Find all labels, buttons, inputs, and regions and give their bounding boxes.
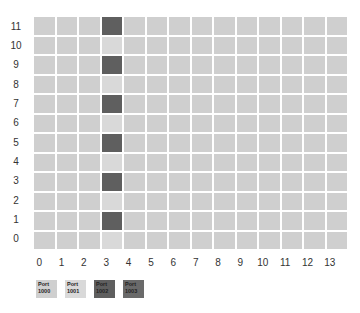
heatmap-cell <box>147 56 168 74</box>
heatmap-cell <box>304 193 325 211</box>
y-tick-label: 5 <box>6 137 26 149</box>
heatmap-cell <box>259 76 280 94</box>
heatmap-cell <box>304 76 325 94</box>
heatmap-cell <box>214 76 235 94</box>
heatmap-cell <box>259 37 280 55</box>
heatmap-cell <box>79 154 100 172</box>
heatmap-cell <box>147 212 168 230</box>
heatmap-cell <box>34 232 55 250</box>
heatmap-cell <box>79 173 100 191</box>
heatmap-cell <box>282 76 303 94</box>
y-tick-label: 4 <box>6 156 26 168</box>
x-tick-label: 11 <box>274 257 296 268</box>
heatmap-cell <box>169 154 190 172</box>
heatmap-cell <box>147 115 168 133</box>
heatmap-cell <box>327 173 348 191</box>
heatmap-cell <box>79 56 100 74</box>
heatmap-cell <box>124 134 145 152</box>
x-tick-label: 6 <box>162 257 184 268</box>
heatmap-cell <box>327 134 348 152</box>
heatmap-cell <box>327 212 348 230</box>
y-tick-label: 6 <box>6 117 26 129</box>
heatmap-cell <box>192 17 213 35</box>
heatmap-cell <box>282 212 303 230</box>
legend-port-1002: Port 1002 <box>94 280 115 298</box>
heatmap-cell <box>192 37 213 55</box>
heatmap-cell <box>57 17 78 35</box>
heatmap-cell <box>57 154 78 172</box>
heatmap-cell <box>282 173 303 191</box>
heatmap-cell <box>237 17 258 35</box>
heatmap-cell <box>237 56 258 74</box>
heatmap-cell <box>147 232 168 250</box>
heatmap-cell <box>57 212 78 230</box>
heatmap-cell <box>304 212 325 230</box>
heatmap-cell <box>147 17 168 35</box>
heatmap-cell <box>102 134 123 152</box>
legend-label: Port <box>38 281 55 288</box>
heatmap-cell <box>34 37 55 55</box>
heatmap-cell <box>327 95 348 113</box>
heatmap-cell <box>214 154 235 172</box>
heatmap-cell <box>34 115 55 133</box>
heatmap-cell <box>304 37 325 55</box>
heatmap-cell <box>304 134 325 152</box>
heatmap-cell <box>34 134 55 152</box>
heatmap-cell <box>237 115 258 133</box>
heatmap-cell <box>192 212 213 230</box>
heatmap-cell <box>79 76 100 94</box>
heatmap-cell <box>259 212 280 230</box>
heatmap-cell <box>34 17 55 35</box>
heatmap-cell <box>237 154 258 172</box>
heatmap-cell <box>214 17 235 35</box>
heatmap-cell <box>34 173 55 191</box>
heatmap-cell <box>124 95 145 113</box>
heatmap-cell <box>237 193 258 211</box>
x-tick-label: 2 <box>73 257 95 268</box>
heatmap-cell <box>192 56 213 74</box>
heatmap-cell <box>34 56 55 74</box>
legend-label: 1002 <box>96 288 113 295</box>
x-tick-label: 0 <box>28 257 50 268</box>
heatmap-cell <box>102 76 123 94</box>
heatmap-cell <box>192 95 213 113</box>
heatmap-cell <box>304 232 325 250</box>
heatmap-cell <box>124 37 145 55</box>
x-tick-label: 1 <box>51 257 73 268</box>
heatmap-cell <box>237 37 258 55</box>
heatmap-cell <box>304 115 325 133</box>
heatmap-cell <box>147 173 168 191</box>
legend-label: Port <box>125 281 142 288</box>
heatmap-cell <box>124 76 145 94</box>
heatmap-cell <box>327 115 348 133</box>
heatmap-cell <box>57 76 78 94</box>
heatmap-cell <box>304 154 325 172</box>
heatmap-cell <box>192 115 213 133</box>
heatmap-cell <box>327 17 348 35</box>
y-tick-label: 2 <box>6 195 26 207</box>
heatmap-cell <box>79 193 100 211</box>
heatmap-cell <box>192 154 213 172</box>
heatmap-cell <box>124 17 145 35</box>
heatmap-cell <box>282 232 303 250</box>
legend-port-1000: Port 1000 <box>36 280 57 298</box>
heatmap-cell <box>192 134 213 152</box>
heatmap-cell <box>147 193 168 211</box>
x-tick-label: 8 <box>207 257 229 268</box>
y-tick-label: 0 <box>6 233 26 245</box>
heatmap-cell <box>169 212 190 230</box>
heatmap-cell <box>327 154 348 172</box>
heatmap-cell <box>102 95 123 113</box>
heatmap-cell <box>259 232 280 250</box>
heatmap-cell <box>79 232 100 250</box>
heatmap-cell <box>169 173 190 191</box>
heatmap-cell <box>214 212 235 230</box>
legend-label: Port <box>96 281 113 288</box>
heatmap-cell <box>259 154 280 172</box>
y-tick-label: 11 <box>6 21 26 33</box>
y-tick-label: 3 <box>6 175 26 187</box>
heatmap-cell <box>237 76 258 94</box>
heatmap-cell <box>282 17 303 35</box>
x-tick-label: 10 <box>252 257 274 268</box>
heatmap-cell <box>57 232 78 250</box>
